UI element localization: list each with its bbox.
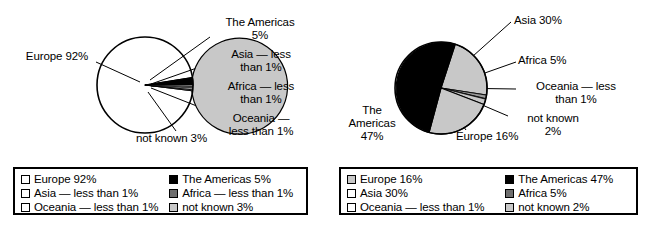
legend-swatch-europe bbox=[347, 175, 356, 184]
legend-swatch-oceania bbox=[347, 203, 356, 212]
legend-item-asia: Asia 30% bbox=[347, 186, 503, 200]
label-asia-left: Asia — less than 1% bbox=[218, 48, 304, 74]
legend-swatch-oceania bbox=[21, 203, 30, 212]
legend-item-europe: Europe 92% bbox=[21, 172, 167, 186]
legend-item-oceania: Oceania — less than 1% bbox=[347, 200, 503, 214]
label-europe-right: Europe 16% bbox=[456, 130, 548, 143]
legend-item-americas: The Americas 5% bbox=[169, 172, 302, 186]
legend-label-oceania: Oceania — less than 1% bbox=[360, 201, 484, 214]
chart-panel-right: Asia 30% Africa 5% Oceania — less than 1… bbox=[326, 0, 651, 236]
legend-swatch-africa bbox=[505, 189, 514, 198]
legend-swatch-africa bbox=[169, 189, 178, 198]
legend-item-africa: Africa — less than 1% bbox=[169, 186, 302, 200]
legend-item-asia: Asia — less than 1% bbox=[21, 186, 167, 200]
label-asia-right: Asia 30% bbox=[514, 14, 614, 27]
legend-swatch-asia bbox=[347, 189, 356, 198]
label-africa-right: Africa 5% bbox=[518, 54, 618, 67]
legend-label-americas: The Americas 5% bbox=[182, 173, 271, 186]
legend-left: Europe 92% The Americas 5% Asia — less t… bbox=[13, 167, 308, 215]
legend-label-africa: Africa 5% bbox=[518, 187, 566, 200]
legend-label-europe: Europe 16% bbox=[360, 173, 422, 186]
pie-chart-right: Asia 30% Africa 5% Oceania — less than 1… bbox=[326, 0, 651, 158]
legend-swatch-americas bbox=[169, 175, 178, 184]
legend-label-not-known: not known 2% bbox=[518, 201, 589, 214]
legend-swatch-europe bbox=[21, 175, 30, 184]
legend-label-not-known: not known 3% bbox=[182, 201, 253, 214]
legend-item-africa: Africa 5% bbox=[505, 186, 632, 200]
chart-panel-left: Europe 92% The Americas 5% Asia — less t… bbox=[0, 0, 325, 236]
legend-label-oceania: Oceania — less than 1% bbox=[34, 201, 158, 214]
legend-label-europe: Europe 92% bbox=[34, 173, 96, 186]
legend-item-europe: Europe 16% bbox=[347, 172, 503, 186]
legend-item-not-known: not known 2% bbox=[505, 200, 632, 214]
legend-label-africa: Africa — less than 1% bbox=[182, 187, 293, 200]
legend-item-not-known: not known 3% bbox=[169, 200, 302, 214]
two-pie-chart-figure: Europe 92% The Americas 5% Asia — less t… bbox=[0, 0, 651, 236]
legend-swatch-americas bbox=[505, 175, 514, 184]
legend-swatch-not-known bbox=[505, 203, 514, 212]
label-americas-right: The Americas 47% bbox=[332, 104, 412, 143]
legend-swatch-asia bbox=[21, 189, 30, 198]
legend-right: Europe 16% The Americas 47% Asia 30% Afr… bbox=[339, 167, 638, 215]
legend-label-asia: Asia 30% bbox=[360, 187, 408, 200]
leader-line-europe bbox=[96, 62, 140, 82]
legend-label-asia: Asia — less than 1% bbox=[34, 187, 138, 200]
legend-label-americas: The Americas 47% bbox=[518, 173, 613, 186]
pie-chart-left: Europe 92% The Americas 5% Asia — less t… bbox=[0, 0, 325, 158]
label-not-known-left: not known 3% bbox=[136, 132, 246, 145]
label-americas-left: The Americas 5% bbox=[214, 16, 306, 42]
legend-swatch-not-known bbox=[169, 203, 178, 212]
label-oceania-right: Oceania — less than 1% bbox=[518, 80, 634, 106]
legend-item-americas: The Americas 47% bbox=[505, 172, 632, 186]
label-europe-left: Europe 92% bbox=[18, 50, 96, 63]
legend-item-oceania: Oceania — less than 1% bbox=[21, 200, 167, 214]
label-africa-left: Africa — less than 1% bbox=[216, 80, 306, 106]
